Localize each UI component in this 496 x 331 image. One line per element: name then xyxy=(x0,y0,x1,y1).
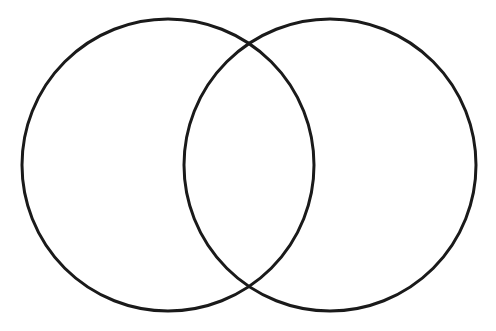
region-left-only[interactable] xyxy=(45,80,215,250)
region-intersection[interactable] xyxy=(219,65,279,265)
venn-diagram-canvas xyxy=(0,0,496,331)
region-right-only[interactable] xyxy=(283,80,453,250)
venn-diagram-figure xyxy=(0,0,496,331)
